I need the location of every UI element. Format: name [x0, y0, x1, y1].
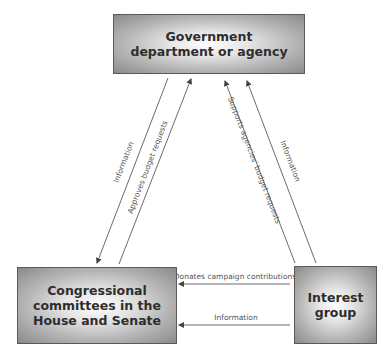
edge-gov-to-congress-information: Information — [97, 78, 168, 263]
node-label-line: Government — [130, 29, 287, 44]
arrow-line — [119, 79, 191, 264]
edge-interest-to-gov-supports: Supports agencies' budget requests — [225, 81, 295, 263]
node-label-line: Interest — [307, 290, 363, 305]
node-label-line: group — [307, 305, 363, 320]
edge-label: Supports agencies' budget requests — [226, 95, 283, 225]
node-label-line: House and Senate — [33, 313, 161, 328]
node-interest-group: Interest group — [294, 266, 377, 344]
edge-interest-to-congress-donations: Donates campaign contributions — [174, 272, 296, 284]
edge-label: Information — [214, 313, 258, 322]
node-label-line: Congressional — [33, 283, 161, 298]
iron-triangle-diagram: Information Approves budget requests Sup… — [0, 0, 391, 359]
edge-interest-to-congress-information: Information — [179, 313, 290, 325]
edge-label: Information — [112, 140, 136, 184]
node-government-agency: Government department or agency — [113, 14, 305, 74]
node-congressional-committees: Congressional committees in the House an… — [17, 267, 177, 344]
edge-congress-to-gov-approves: Approves budget requests — [119, 79, 191, 264]
edge-label: Information — [278, 139, 302, 183]
node-label-line: department or agency — [130, 44, 287, 59]
arrow-line — [97, 78, 168, 263]
node-label-line: committees in the — [33, 298, 161, 313]
edge-label: Donates campaign contributions — [174, 272, 296, 281]
edge-label: Approves budget requests — [126, 119, 170, 215]
